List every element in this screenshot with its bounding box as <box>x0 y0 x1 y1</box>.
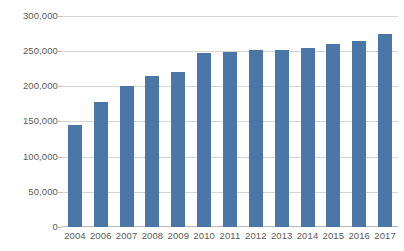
bar[interactable] <box>249 50 263 227</box>
x-tick-label: 2011 <box>217 229 243 245</box>
bar[interactable] <box>326 44 340 227</box>
y-tick-label: 50,000 <box>0 187 58 197</box>
y-tick-mark <box>58 227 62 228</box>
bar-slot <box>295 16 321 227</box>
x-tick-label: 2017 <box>372 229 398 245</box>
bar-slot <box>243 16 269 227</box>
y-axis: 300,000 250,000 200,000 150,000 100,000 … <box>0 0 58 251</box>
bar-slot <box>114 16 140 227</box>
x-axis: 2004 2006 2007 2008 2009 2010 2011 2012 … <box>62 229 398 245</box>
bar-slot <box>62 16 88 227</box>
x-tick-label: 2015 <box>320 229 346 245</box>
bar[interactable] <box>68 125 82 227</box>
y-tick-label: 100,000 <box>0 152 58 162</box>
bar-slot <box>217 16 243 227</box>
bar[interactable] <box>275 50 289 227</box>
bar-chart: 300,000 250,000 200,000 150,000 100,000 … <box>0 0 404 251</box>
y-tick-label: 300,000 <box>0 11 58 21</box>
bars-layer <box>62 16 398 227</box>
bar[interactable] <box>301 48 315 227</box>
x-tick-label: 2009 <box>165 229 191 245</box>
plot-area <box>62 16 398 227</box>
x-tick-label: 2016 <box>346 229 372 245</box>
bar[interactable] <box>197 53 211 227</box>
x-tick-label: 2008 <box>140 229 166 245</box>
bar[interactable] <box>171 72 185 227</box>
bar[interactable] <box>352 41 366 227</box>
y-tick-label: 150,000 <box>0 116 58 126</box>
y-tick-label: 250,000 <box>0 46 58 56</box>
bar[interactable] <box>145 76 159 227</box>
x-tick-label: 2007 <box>114 229 140 245</box>
x-tick-label: 2014 <box>295 229 321 245</box>
bar-slot <box>269 16 295 227</box>
x-tick-label: 2013 <box>269 229 295 245</box>
y-tick-label: 200,000 <box>0 81 58 91</box>
bar[interactable] <box>120 86 134 227</box>
bar-slot <box>320 16 346 227</box>
bar[interactable] <box>94 102 108 227</box>
bar-slot <box>140 16 166 227</box>
bar-slot <box>372 16 398 227</box>
x-tick-label: 2010 <box>191 229 217 245</box>
bar[interactable] <box>378 34 392 227</box>
x-tick-label: 2012 <box>243 229 269 245</box>
x-tick-label: 2006 <box>88 229 114 245</box>
bar-slot <box>165 16 191 227</box>
bar[interactable] <box>223 52 237 227</box>
x-tick-label: 2004 <box>62 229 88 245</box>
bar-slot <box>88 16 114 227</box>
bar-slot <box>191 16 217 227</box>
bar-slot <box>346 16 372 227</box>
y-tick-label: 0 <box>0 222 58 232</box>
